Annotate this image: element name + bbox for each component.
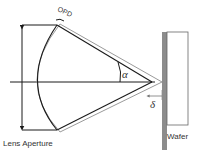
wafer-body: [167, 32, 188, 125]
ray-top: [57, 25, 152, 82]
alpha-angle-arc: [118, 62, 121, 82]
opd-marker: [56, 19, 64, 21]
lens-aperture-label: Lens Aperture: [3, 139, 53, 148]
ray-bottom: [57, 82, 152, 130]
wafer-label: Wafer: [167, 132, 188, 141]
optics-diagram: OPD α δ Lens Aperture Wafer: [0, 0, 204, 151]
ray-bottom-gray: [60, 82, 162, 132]
ray-top-gray: [60, 24, 162, 82]
alpha-label: α: [122, 68, 128, 80]
opd-label: OPD: [57, 5, 74, 18]
delta-label: δ: [150, 98, 156, 110]
